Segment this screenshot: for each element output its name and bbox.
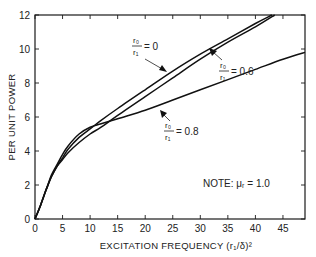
series-label-r0r1-0: r₀ r₁ = 0: [132, 36, 167, 72]
x-tick-label: 25: [167, 223, 179, 234]
x-tick-label: 35: [222, 223, 234, 234]
y-tick-label: 4: [24, 146, 30, 157]
x-tick-label: 45: [277, 223, 289, 234]
y-tick-label: 0: [24, 214, 30, 225]
label-value: = 0.8: [176, 126, 199, 137]
y-tick-label: 8: [24, 78, 30, 89]
x-tick-label: 40: [250, 223, 262, 234]
series-label-r0r1-0.6: r₀ r₁ = 0.6: [209, 48, 254, 82]
label-denominator: r₁: [220, 73, 226, 82]
x-tick-label: 20: [140, 223, 152, 234]
y-tick-label: 10: [19, 44, 31, 55]
chart: 051015202530354045 024681012 PER UNIT PO…: [0, 0, 316, 257]
label-denominator: r₁: [165, 133, 171, 142]
y-axis-title: PER UNIT POWER: [6, 74, 17, 161]
arrowhead-icon: [159, 65, 167, 72]
label-value: = 0: [144, 41, 159, 52]
y-tick-label: 2: [24, 180, 30, 191]
label-value: = 0.6: [231, 66, 254, 77]
note-annotation: NOTE: μᵣ = 1.0: [203, 178, 270, 189]
x-tick-label: 0: [32, 223, 38, 234]
label-numerator: r₀: [220, 61, 226, 70]
y-tick-label: 6: [24, 112, 30, 123]
x-tick-label: 5: [60, 223, 66, 234]
x-axis-title: EXCITATION FREQUENCY (r₁/δ)²: [100, 240, 253, 251]
series-label-r0r1-0.8: r₀ r₁ = 0.8: [160, 110, 199, 142]
x-tick-label: 30: [195, 223, 207, 234]
label-denominator: r₁: [133, 48, 139, 57]
x-tick-label: 10: [85, 223, 97, 234]
x-tick-label: 15: [112, 223, 124, 234]
label-numerator: r₀: [133, 36, 139, 45]
y-tick-label: 12: [19, 10, 31, 21]
x-axis-ticks: 051015202530354045: [32, 15, 289, 234]
label-numerator: r₀: [165, 121, 171, 130]
